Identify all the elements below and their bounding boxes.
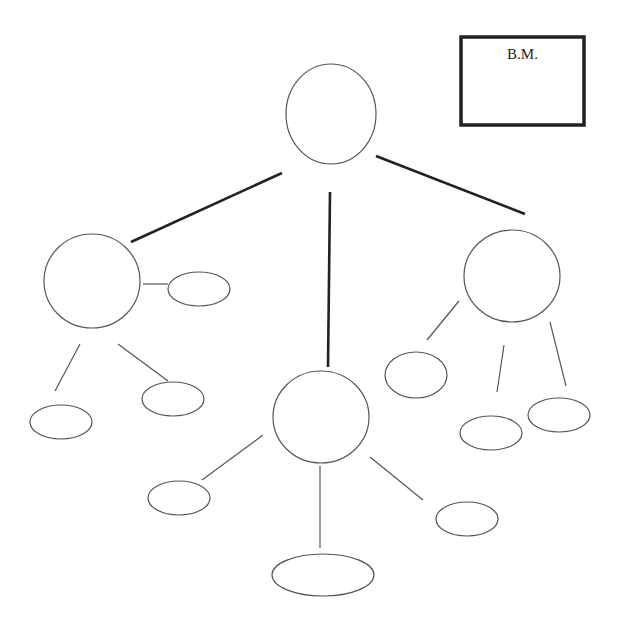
node-left: [44, 234, 140, 328]
title-box-label: B.M.: [507, 46, 538, 62]
node-left-child-right: [168, 272, 230, 306]
edge-root-to-right: [376, 156, 525, 214]
edge-middle-to-middle-child-right: [370, 457, 423, 500]
node-right-child-right: [528, 398, 590, 432]
title-box: B.M.: [461, 37, 584, 125]
node-right: [464, 230, 560, 322]
edge-right-to-right-child-right: [550, 322, 566, 386]
node-right-child-left: [385, 352, 447, 398]
edges-layer: [55, 156, 566, 548]
edge-root-to-middle: [328, 192, 330, 367]
node-middle-child-right: [436, 502, 498, 536]
nodes-layer: [30, 64, 590, 596]
edge-right-to-right-child-left: [427, 301, 459, 340]
edge-middle-to-middle-child-left: [202, 435, 263, 480]
node-middle-child-bottom: [272, 554, 374, 596]
node-root: [286, 64, 376, 164]
node-left-child-bottom-left: [30, 405, 92, 439]
node-left-child-bottom-right: [142, 382, 204, 416]
concept-map-diagram: B.M.: [0, 0, 622, 627]
edge-left-to-left-child-bottom-left: [55, 344, 80, 391]
node-right-child-bottom: [460, 416, 522, 450]
edge-root-to-left: [131, 173, 282, 242]
edge-left-to-left-child-bottom-right: [118, 344, 168, 381]
node-middle-child-left: [148, 481, 210, 515]
edge-right-to-right-child-bottom: [497, 345, 504, 392]
node-middle: [273, 371, 369, 463]
